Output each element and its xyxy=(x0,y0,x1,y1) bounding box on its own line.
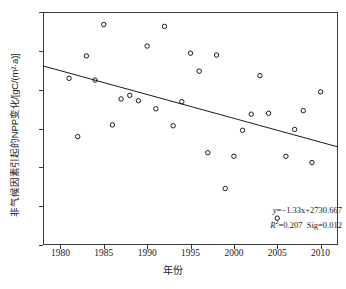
scatter-point xyxy=(310,160,314,164)
scatter-point xyxy=(206,151,210,155)
trendline-path xyxy=(43,66,338,147)
scatter-point xyxy=(119,97,123,101)
scatter-point xyxy=(197,69,201,73)
scatter-point xyxy=(76,134,80,138)
equation-body: =−1.33x+2730.667 xyxy=(277,205,342,215)
regression-fit-stats: R2=0.207 Sig=0.012 xyxy=(270,219,342,230)
scatter-point xyxy=(84,54,88,58)
significance-value: Sig=0.012 xyxy=(307,220,342,230)
scatter-point xyxy=(188,51,192,55)
scatter-point xyxy=(258,73,262,77)
trendline xyxy=(43,66,338,147)
scatter-point xyxy=(128,93,132,97)
scatter-point xyxy=(301,108,305,112)
scatter-point xyxy=(292,127,296,131)
scatter-point xyxy=(240,128,244,132)
scatter-point xyxy=(318,90,322,94)
scatter-point xyxy=(145,44,149,48)
figure-container: 0 20 40 60 80 100 120 1980 1985 1990 199… xyxy=(0,0,346,289)
scatter-point xyxy=(136,99,140,103)
scatter-point xyxy=(232,154,236,158)
scatter-point xyxy=(223,186,227,190)
scatter-points xyxy=(67,22,323,220)
scatter-point xyxy=(180,99,184,103)
scatter-point xyxy=(214,53,218,57)
scatter-point xyxy=(110,123,114,127)
scatter-point xyxy=(154,107,158,111)
data-layer xyxy=(0,0,346,289)
scatter-point xyxy=(102,22,106,26)
scatter-point xyxy=(162,24,166,28)
regression-equation: y=−1.33x+2730.667 xyxy=(273,205,342,215)
scatter-point xyxy=(284,154,288,158)
r-squared-value: =0.207 xyxy=(279,220,303,230)
scatter-point xyxy=(171,124,175,128)
scatter-point xyxy=(67,76,71,80)
scatter-point xyxy=(266,111,270,115)
scatter-point xyxy=(249,112,253,116)
